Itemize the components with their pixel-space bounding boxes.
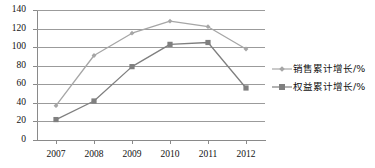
x-axis-tick-label: 2012 bbox=[237, 150, 256, 160]
legend-marker-square-icon bbox=[272, 81, 292, 93]
legend-item-sales: 销售累计增长/% bbox=[272, 60, 375, 78]
y-axis-tick-mark bbox=[33, 140, 37, 141]
x-axis-tick-mark bbox=[56, 140, 57, 144]
x-axis-tick-mark bbox=[132, 140, 133, 144]
y-axis-tick-mark bbox=[33, 103, 37, 104]
y-axis-tick-mark bbox=[33, 66, 37, 67]
x-axis-tick-label: 2009 bbox=[123, 150, 142, 160]
legend-label-equity: 权益累计增长/% bbox=[293, 82, 365, 92]
x-axis-tick-label: 2010 bbox=[161, 150, 180, 160]
x-axis-tick-mark bbox=[246, 140, 247, 144]
y-axis-tick-mark bbox=[33, 10, 37, 11]
x-axis-tick-mark bbox=[170, 140, 171, 144]
legend-item-equity: 权益累计增长/% bbox=[272, 78, 375, 96]
y-axis-tick-mark bbox=[33, 121, 37, 122]
legend-marker-diamond-icon bbox=[272, 63, 292, 75]
y-axis-tick-mark bbox=[33, 29, 37, 30]
x-axis-tick-mark bbox=[94, 140, 95, 144]
x-axis-tick-mark bbox=[208, 140, 209, 144]
y-axis-tick-mark bbox=[33, 84, 37, 85]
chart-legend: 销售累计增长/% 权益累计增长/% bbox=[272, 60, 375, 96]
x-axis-tick-label: 2007 bbox=[47, 150, 66, 160]
y-axis-tick-mark bbox=[33, 47, 37, 48]
x-axis-tick-label: 2008 bbox=[85, 150, 104, 160]
line-chart: 140120100806040200 200720082009201020112… bbox=[0, 0, 375, 168]
legend-label-sales: 销售累计增长/% bbox=[293, 64, 365, 74]
x-axis-tick-label: 2011 bbox=[199, 150, 218, 160]
